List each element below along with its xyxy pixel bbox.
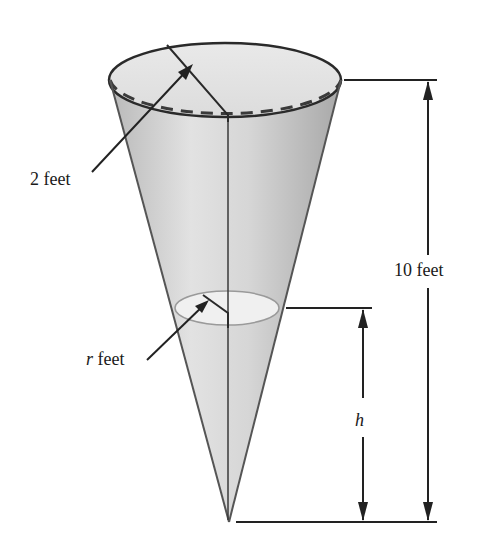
label-total-height: 10 feet — [394, 261, 443, 279]
label-water-height: h — [355, 411, 364, 429]
arrow-up-icon — [358, 309, 368, 328]
arrow-up-icon — [423, 81, 433, 100]
label-r-unit: feet — [93, 349, 124, 369]
cone-top-rim — [109, 43, 341, 117]
arrow-down-icon — [358, 502, 368, 521]
label-top-radius: 2 feet — [30, 170, 70, 188]
label-r-var: r — [86, 349, 93, 369]
label-water-radius: r feet — [86, 350, 125, 368]
arrow-down-icon — [423, 502, 433, 521]
